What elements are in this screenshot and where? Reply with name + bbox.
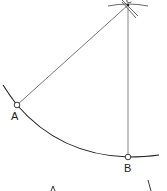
label-c: C	[126, 0, 132, 5]
point-b	[125, 154, 131, 160]
label-a: A	[11, 110, 19, 122]
construction-diagram: A B C	[0, 0, 167, 191]
point-a	[14, 102, 20, 108]
line-a-c	[17, 5, 128, 105]
label-b: B	[124, 162, 131, 174]
next-figure-fragment	[51, 180, 151, 191]
arc-a-b	[3, 85, 159, 157]
